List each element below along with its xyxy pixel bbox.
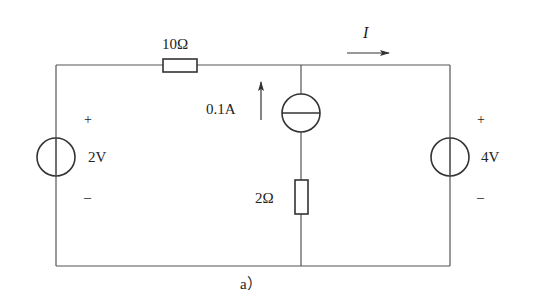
voltage-source-2v: + 2V – — [37, 112, 107, 205]
circuit-diagram: 10Ω + 2V – 0.1A 2Ω + 4V – I a） — [0, 0, 533, 304]
resistor-2-ohm: 2Ω — [255, 180, 308, 214]
current-i-indicator: I — [347, 24, 389, 53]
current-source-label: 0.1A — [206, 101, 236, 117]
resistor-10-ohm-label: 10Ω — [162, 36, 188, 52]
voltage-source-4v: + 4V – — [431, 112, 500, 205]
minus-sign: – — [83, 190, 92, 205]
resistor-10-ohm: 10Ω — [162, 36, 197, 72]
resistor-symbol — [163, 59, 197, 72]
resistor-2-ohm-label: 2Ω — [255, 190, 274, 206]
voltage-source-4v-label: 4V — [481, 149, 500, 165]
current-source-0-1a: 0.1A — [206, 82, 320, 132]
wires — [56, 65, 450, 266]
minus-sign: – — [476, 190, 485, 205]
voltage-source-2v-label: 2V — [88, 149, 107, 165]
current-i-label: I — [362, 24, 369, 41]
plus-sign: + — [84, 112, 92, 127]
plus-sign: + — [477, 112, 485, 127]
resistor-symbol — [295, 180, 308, 214]
figure-caption: a） — [240, 276, 262, 292]
